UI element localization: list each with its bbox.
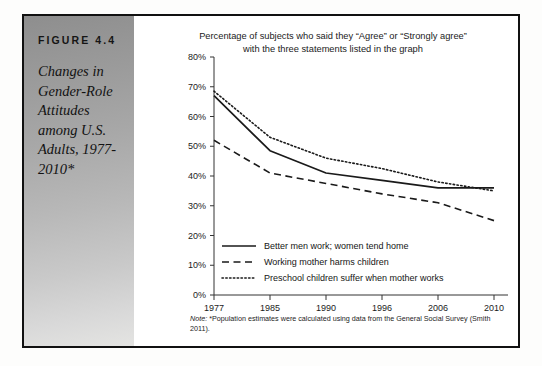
x-axis-tick-label: 2010 — [484, 303, 504, 313]
x-axis-tick-label: 2006 — [428, 303, 448, 313]
line-chart-plot: 0%10%20%30%40%50%60%70%80%19771985199019… — [134, 16, 520, 348]
legend-label-1: Working mother harms children — [264, 257, 389, 267]
note-text: *Population estimates were calculated us… — [190, 314, 490, 333]
figure-caption-panel: FIGURE 4.4 Changes in Gender-Role Attitu… — [24, 16, 134, 346]
figure-number-label: FIGURE 4.4 — [38, 34, 116, 46]
legend-label-2: Preschool children suffer when mother wo… — [264, 273, 444, 283]
figure-caption-text: Changes in Gender-Role Attitudes among U… — [38, 62, 130, 179]
figure-page: FIGURE 4.4 Changes in Gender-Role Attitu… — [0, 0, 542, 366]
note-prefix: Note: — [190, 314, 207, 323]
x-axis-tick-label: 1990 — [316, 303, 336, 313]
x-axis-tick-label: 1977 — [204, 303, 224, 313]
x-axis-tick-label: 1996 — [372, 303, 392, 313]
y-axis-tick-label: 70% — [188, 82, 206, 92]
y-axis-tick-label: 50% — [188, 141, 206, 151]
series-line-1 — [214, 140, 494, 220]
y-axis-tick-label: 60% — [188, 112, 206, 122]
y-axis-tick-label: 80% — [188, 52, 206, 62]
y-axis-tick-label: 0% — [193, 290, 206, 300]
legend-label-0: Better men work; women tend home — [264, 241, 409, 251]
chart-area: Percentage of subjects who said they “Ag… — [134, 16, 518, 346]
series-line-0 — [214, 96, 494, 188]
y-axis-tick-label: 40% — [188, 171, 206, 181]
figure-frame: FIGURE 4.4 Changes in Gender-Role Attitu… — [22, 14, 520, 348]
figure-note: Note: *Population estimates were calcula… — [190, 314, 500, 334]
x-axis-tick-label: 1985 — [260, 303, 280, 313]
y-axis-tick-label: 30% — [188, 201, 206, 211]
y-axis-tick-label: 10% — [188, 260, 206, 270]
y-axis-tick-label: 20% — [188, 231, 206, 241]
